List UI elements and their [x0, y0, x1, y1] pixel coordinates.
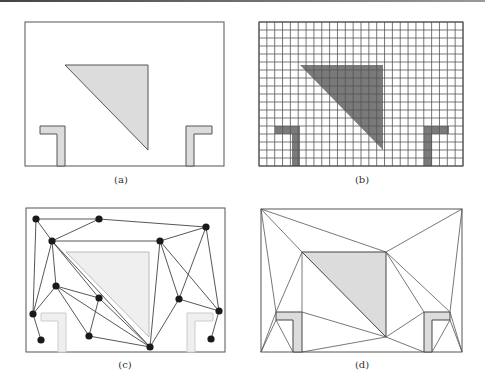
- roadmap-node: [207, 335, 214, 342]
- roadmap-node: [156, 237, 163, 244]
- panel-d-triangulation: [261, 209, 462, 352]
- caption-a: (a): [114, 174, 128, 185]
- path-planning-figure: [0, 0, 485, 392]
- caption-b: (b): [355, 174, 369, 185]
- roadmap-node: [48, 237, 55, 244]
- roadmap-node: [95, 215, 102, 222]
- roadmap-node: [202, 223, 209, 230]
- roadmap-node: [95, 294, 102, 301]
- roadmap-node: [37, 336, 44, 343]
- panel-b-cell-grid: [259, 22, 463, 166]
- roadmap-node: [32, 215, 39, 222]
- roadmap-node: [215, 307, 222, 314]
- panel-a-workspace: [25, 22, 224, 166]
- roadmap-node: [146, 343, 153, 350]
- roadmap-node: [52, 282, 59, 289]
- roadmap-node: [85, 332, 92, 339]
- roadmap-node: [29, 310, 36, 317]
- roadmap-node: [175, 295, 182, 302]
- caption-d: (d): [355, 359, 369, 370]
- panel-c-roadmap: [26, 208, 225, 352]
- caption-c: (c): [118, 359, 131, 370]
